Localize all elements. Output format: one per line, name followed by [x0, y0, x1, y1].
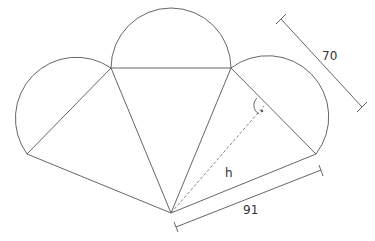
right-chord	[231, 68, 316, 154]
right-semicircle	[231, 56, 329, 154]
left-semicircle	[15, 57, 111, 154]
top-semicircle	[111, 8, 231, 68]
dim-91-line	[176, 170, 321, 227]
diagram-canvas: 70 91 h	[0, 0, 375, 241]
dim-91-tick-start	[174, 222, 178, 232]
right-angle-dot	[261, 110, 263, 112]
left-chord	[27, 68, 111, 154]
label-70: 70	[322, 49, 337, 63]
right-slant-edge	[171, 68, 231, 213]
height-line	[171, 106, 264, 213]
dim-70-line	[281, 19, 362, 107]
right-angle-marker	[254, 98, 259, 114]
label-h: h	[225, 166, 233, 180]
left-base-edge	[27, 154, 171, 213]
left-slant-edge	[111, 68, 171, 213]
label-91: 91	[243, 203, 258, 217]
